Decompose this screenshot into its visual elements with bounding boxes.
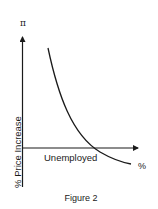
phillips-curve-figure: π % Price Increase Unemployed % Figure 2	[0, 0, 158, 209]
y-axis-label: % Price Increase	[12, 107, 23, 197]
figure-caption: Figure 2	[0, 193, 158, 203]
x-axis-label: Unemployed	[44, 152, 97, 163]
plot-area	[0, 0, 158, 209]
pi-symbol-label: π	[18, 18, 28, 28]
x-axis-unit-label: %	[138, 161, 146, 171]
phillips-curve	[48, 48, 131, 164]
